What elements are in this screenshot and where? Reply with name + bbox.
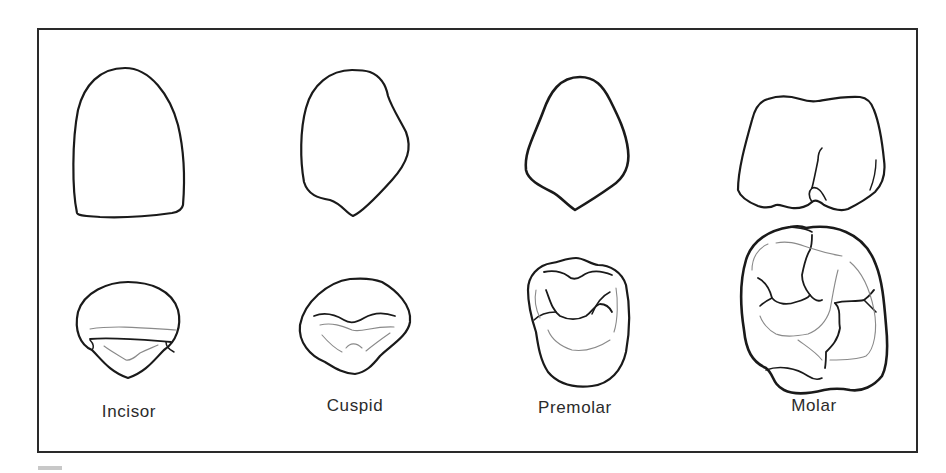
cuspid-label: Cuspid [327,396,384,416]
incisor-profile-drawing [73,68,184,217]
cuspid-occlusal-drawing [300,278,410,374]
incisor-occlusal-drawing [77,282,179,378]
molar-profile-drawing [738,96,885,210]
molar-occlusal-drawing [741,226,887,393]
cuspid-profile-drawing [301,70,408,216]
molar-label: Molar [791,396,837,416]
premolar-profile-drawing [526,77,629,210]
incisor-label: Incisor [102,402,156,422]
premolar-occlusal-drawing [528,258,629,386]
corner-mark [38,466,62,470]
premolar-label: Premolar [538,398,612,418]
